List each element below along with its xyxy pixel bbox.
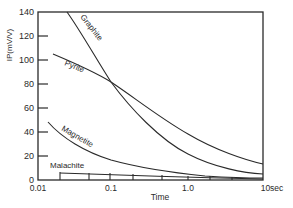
- y-tick-140: 140: [19, 7, 34, 17]
- y-axis-labels: 0 20 40 60 80 100 120 140: [19, 7, 34, 185]
- y-tick-100: 100: [19, 55, 34, 65]
- x-tick-10sec: 10sec: [261, 183, 284, 193]
- graphite-label: Graphite: [78, 13, 104, 43]
- x-tick-1.0: 1.0: [182, 183, 194, 193]
- pyrite-label: Pyrite: [63, 59, 86, 75]
- y-tick-40: 40: [24, 127, 34, 137]
- x-tick-0.1: 0.1: [105, 183, 117, 193]
- y-tick-20: 20: [24, 151, 34, 161]
- x-tick-0.01: 0.01: [30, 183, 47, 193]
- y-tick-120: 120: [19, 31, 34, 41]
- pyrite-curve: [53, 54, 263, 164]
- malachite-label: Malachite: [50, 161, 85, 170]
- y-tick-60: 60: [24, 103, 34, 113]
- y-axis-title: IP(mV/V): [5, 28, 14, 61]
- y-axis-ticks: [38, 36, 48, 156]
- x-axis-title: Time: [151, 192, 170, 202]
- y-tick-80: 80: [24, 79, 34, 89]
- ip-decay-chart: 0 20 40 60 80 100 120 140 IP(mV/V) 0.01 …: [0, 0, 293, 208]
- plot-frame: [38, 12, 263, 180]
